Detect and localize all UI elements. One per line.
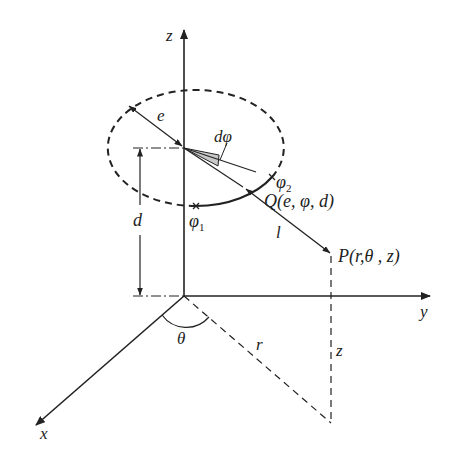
distance-l-label: l (276, 223, 281, 242)
radial-r-label: r (256, 335, 263, 354)
phi1-label: φ1 (189, 211, 204, 233)
y-axis-label: y (418, 302, 428, 321)
height-z-label: z (335, 341, 343, 360)
phi2-marker-icon (269, 174, 275, 180)
radius-e-arrow (129, 106, 182, 146)
point-P-label: P(r,θ , z) (337, 246, 400, 267)
height-d-label: d (133, 210, 143, 230)
dphi-wedge (184, 148, 219, 166)
radius-e-label: e (157, 106, 165, 125)
theta-arc (162, 315, 209, 327)
z-axis-label: z (165, 26, 173, 45)
theta-label: θ (177, 329, 185, 348)
cylindrical-coordinate-diagram: z y x e dφ φ2 φ1 Q(e, φ, d) l P(r,θ , z)… (0, 0, 455, 463)
dphi-label: dφ (214, 127, 232, 146)
x-axis-label: x (39, 424, 48, 443)
r-projection (184, 296, 331, 423)
point-Q-label: Q(e, φ, d) (264, 191, 334, 212)
